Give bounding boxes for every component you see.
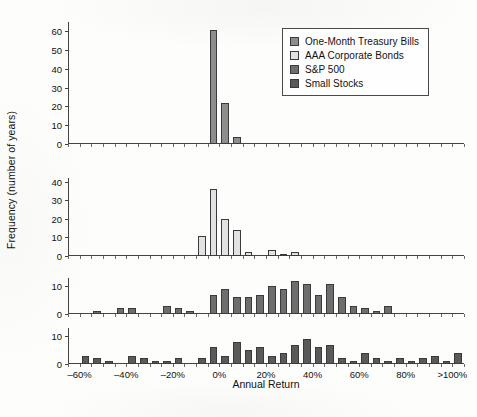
- x-tick: [161, 144, 162, 147]
- x-tick: [313, 364, 314, 367]
- x-tick: [161, 364, 162, 367]
- legend-item: AAA Corporate Bonds: [290, 48, 419, 62]
- x-tick: [91, 314, 92, 317]
- x-tick: [219, 144, 220, 147]
- x-tick: [173, 144, 174, 147]
- x-tick: [313, 144, 314, 147]
- x-tick: [103, 256, 104, 259]
- legend-item-label: One-Month Treasury Bills: [305, 36, 419, 47]
- x-tick: [464, 364, 465, 367]
- x-tick: [254, 256, 255, 259]
- x-tick: [173, 364, 174, 367]
- x-tick: [150, 314, 151, 317]
- x-tick: [184, 256, 185, 259]
- legend-swatch-small: [290, 79, 299, 88]
- x-tick: [115, 256, 116, 259]
- panel-s-p-500: 010: [68, 278, 464, 314]
- bar: [163, 361, 171, 364]
- x-tick: [417, 314, 418, 317]
- x-tick: [115, 144, 116, 147]
- x-tick: [371, 364, 372, 367]
- bar: [443, 361, 451, 364]
- y-tick-label: 0: [57, 251, 62, 262]
- x-tick: [429, 364, 430, 367]
- x-tick: [359, 256, 360, 259]
- x-tick: [184, 364, 185, 367]
- x-tick: [394, 144, 395, 147]
- bar: [303, 284, 311, 314]
- x-tick: [452, 364, 453, 367]
- y-tick-label: 50: [51, 45, 62, 56]
- legend-item-label: S&P 500: [305, 64, 345, 75]
- bar: [291, 252, 299, 256]
- legend-swatch-aaa: [290, 51, 299, 60]
- x-tick: [464, 256, 465, 259]
- x-tick: [382, 256, 383, 259]
- bar: [221, 289, 229, 314]
- x-tick: [289, 144, 290, 147]
- legend-item-label: Small Stocks: [305, 78, 363, 89]
- x-tick: [161, 256, 162, 259]
- x-tick: [394, 364, 395, 367]
- bar: [315, 295, 323, 314]
- legend-item-label: AAA Corporate Bonds: [305, 50, 404, 61]
- x-tick: [359, 364, 360, 367]
- x-tick: [313, 314, 314, 317]
- bar: [280, 289, 288, 314]
- y-tick-label: 10: [51, 281, 62, 292]
- y-tick-label: 20: [51, 213, 62, 224]
- y-tick-label: 10: [51, 232, 62, 243]
- x-tick: [243, 256, 244, 259]
- y-tick: [65, 219, 68, 220]
- x-tick: [243, 364, 244, 367]
- bar: [140, 358, 148, 364]
- bar: [245, 252, 253, 256]
- bar: [210, 295, 218, 314]
- x-tick: [243, 144, 244, 147]
- x-tick: [406, 364, 407, 367]
- bar: [82, 356, 90, 364]
- y-tick-label: 0: [57, 139, 62, 150]
- x-tick: [371, 144, 372, 147]
- bar: [373, 358, 381, 364]
- y-tick-label: 30: [51, 195, 62, 206]
- x-tick: [138, 256, 139, 259]
- x-tick: [254, 144, 255, 147]
- x-tick: [161, 314, 162, 317]
- x-tick: [348, 256, 349, 259]
- bar: [338, 297, 346, 314]
- x-tick: [359, 144, 360, 147]
- bar: [326, 345, 334, 364]
- bar: [431, 356, 439, 364]
- x-tick: [278, 144, 279, 147]
- bar: [373, 311, 381, 314]
- x-tick: [80, 144, 81, 147]
- x-tick: [452, 314, 453, 317]
- bar: [280, 254, 288, 256]
- x-tick: [243, 314, 244, 317]
- x-tick: [452, 144, 453, 147]
- x-tick: [406, 144, 407, 147]
- bar: [315, 347, 323, 364]
- x-tick: [348, 364, 349, 367]
- x-tick: [313, 256, 314, 259]
- x-tick: [219, 364, 220, 367]
- bar: [454, 353, 462, 364]
- x-tick: [196, 144, 197, 147]
- x-tick: [115, 314, 116, 317]
- bar: [105, 361, 113, 364]
- x-tick: [441, 314, 442, 317]
- y-tick: [65, 31, 68, 32]
- x-tick: [301, 256, 302, 259]
- x-tick: [266, 314, 267, 317]
- x-tick: [138, 314, 139, 317]
- x-tick: [452, 256, 453, 259]
- x-tick: [173, 314, 174, 317]
- x-tick: [382, 364, 383, 367]
- y-tick: [65, 182, 68, 183]
- x-tick: [301, 364, 302, 367]
- x-tick: [219, 314, 220, 317]
- x-tick: [208, 364, 209, 367]
- y-tick: [65, 50, 68, 51]
- x-tick: [91, 364, 92, 367]
